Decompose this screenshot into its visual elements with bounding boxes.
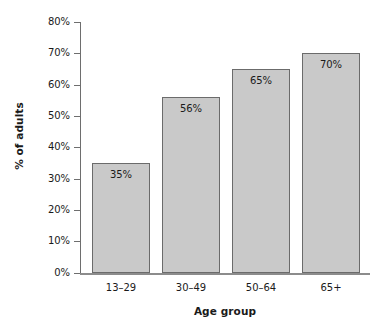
y-tick-label: 10% [10,236,70,246]
bar-50-64[interactable]: 65% [232,69,290,273]
bar-value-label: 65% [233,75,289,86]
x-tick-label-65-plus: 65+ [291,282,371,293]
x-tick-label-30-49: 30–49 [151,282,231,293]
bar-13-29[interactable]: 35% [92,163,150,273]
y-tick-label: 20% [10,205,70,215]
y-tick-label: 0% [10,268,70,278]
y-tick-label: 30% [10,174,70,184]
y-tick-label: 80% [10,17,70,27]
y-tick-label: 60% [10,80,70,90]
bar-value-label: 56% [163,103,219,114]
x-axis-line [80,273,370,275]
bar-30-49[interactable]: 56% [162,97,220,273]
x-tick-label-50-64: 50–64 [221,282,301,293]
y-tick-label: 50% [10,111,70,121]
y-tick-mark [74,273,80,274]
y-tick-label: 40% [10,142,70,152]
y-tick-label: 70% [10,48,70,58]
bar-chart: % of adults 0% 10% 20% 30% 40% 50% 60% 7… [0,0,382,333]
plot-area: 35% 56% 65% 70% [80,22,370,273]
x-tick-label-13-29: 13–29 [81,282,161,293]
bar-65-plus[interactable]: 70% [302,53,360,273]
bar-value-label: 70% [303,59,359,70]
x-axis-title: Age group [80,305,370,317]
y-axis-title: % of adults [13,86,25,186]
bar-value-label: 35% [93,169,149,180]
